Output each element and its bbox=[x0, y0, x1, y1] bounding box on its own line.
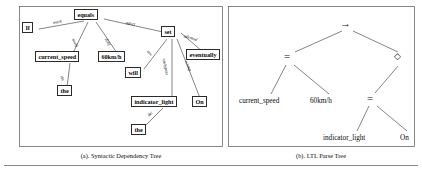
caption-right: (b). LTL Parse Tree bbox=[273, 152, 369, 159]
dep-node-the-1[interactable]: the bbox=[57, 85, 72, 96]
ltl-edge-eq2-on bbox=[377, 106, 407, 131]
ltl-edge-eq2-il bbox=[357, 106, 369, 131]
ltl-node-equals-2[interactable]: = bbox=[367, 93, 373, 104]
ltl-edge-eq1-cs bbox=[271, 65, 286, 94]
dep-node-if[interactable]: If bbox=[22, 22, 33, 33]
dep-node-eventually[interactable]: eventually bbox=[186, 49, 220, 60]
dep-node-current-speed[interactable]: current_speed bbox=[35, 51, 79, 62]
ltl-leaf-indicator-light[interactable]: indicator_light bbox=[323, 134, 365, 142]
ltl-edge-diamond-eq2 bbox=[375, 66, 398, 93]
dep-node-will[interactable]: will bbox=[125, 67, 141, 78]
ltl-node-diamond-icon[interactable]: ◇ bbox=[394, 52, 401, 61]
dep-node-indicator-light[interactable]: indicator_light bbox=[131, 96, 177, 107]
ltl-leaf-current-speed[interactable]: current_speed bbox=[239, 97, 279, 105]
ltl-edge-implies-eq1 bbox=[295, 31, 342, 52]
ltl-edges bbox=[271, 31, 407, 131]
ltl-leaf-60kmh[interactable]: 60km/h bbox=[310, 97, 332, 105]
figure-container: If equals set current_speed 60km/h the w… bbox=[0, 0, 422, 173]
dep-node-equals[interactable]: equals bbox=[74, 9, 98, 20]
edge-current-speed-the bbox=[67, 63, 70, 87]
caption-left: (a). Syntactic Dependency Tree bbox=[61, 152, 181, 159]
dependency-edges bbox=[39, 19, 203, 127]
ltl-edge-implies-diamond bbox=[353, 31, 398, 52]
dep-node-set[interactable]: set bbox=[161, 26, 175, 37]
ltl-node-equals-1[interactable]: = bbox=[284, 51, 290, 62]
ltl-node-implies-icon[interactable]: → bbox=[340, 18, 351, 29]
ltl-leaf-on[interactable]: On bbox=[400, 134, 409, 142]
dep-node-60kmh[interactable]: 60km/h bbox=[98, 51, 125, 62]
dep-node-on[interactable]: On bbox=[192, 96, 207, 107]
edge-indicator-light-the bbox=[144, 108, 163, 127]
right-panel-frame bbox=[229, 7, 415, 147]
dep-node-the-2[interactable]: the bbox=[131, 124, 146, 135]
left-panel-frame bbox=[20, 7, 223, 147]
ltl-edge-eq1-spd bbox=[294, 65, 329, 94]
